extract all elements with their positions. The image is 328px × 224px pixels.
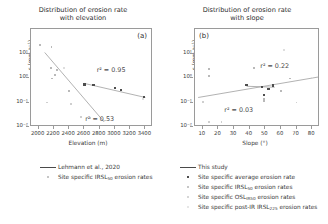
data-point-avg bbox=[272, 84, 274, 86]
y-tick-label: 10⁰ bbox=[166, 73, 192, 79]
legend-square-swatch bbox=[187, 176, 190, 179]
data-point-pir bbox=[311, 77, 313, 79]
legend-square-swatch bbox=[187, 196, 190, 199]
x-tick-mark bbox=[114, 126, 115, 129]
data-point-irsl bbox=[253, 67, 255, 69]
y-tick-mark bbox=[26, 126, 29, 127]
legend-item-label: This study bbox=[198, 164, 228, 170]
y-tick-label: 10¹ bbox=[166, 49, 192, 55]
x-tick-label: 20 bbox=[214, 130, 221, 136]
x-tick-label: 2600 bbox=[77, 130, 90, 136]
figure-legend: Lehmann et al., 2020Site specific IRSL50… bbox=[0, 162, 328, 224]
data-point-pir bbox=[142, 98, 144, 100]
legend-item[interactable]: Site specific IRSL50 erosion rates bbox=[38, 172, 178, 182]
regression-lines bbox=[31, 29, 153, 127]
data-point-osl bbox=[296, 102, 298, 104]
x-tick-mark bbox=[311, 126, 312, 129]
data-point-osl bbox=[208, 121, 210, 123]
x-tick-label: 80 bbox=[308, 130, 315, 136]
y-tick-label: 10⁻¹ bbox=[2, 98, 28, 104]
panel-a-plot-area: r² = 0.95r² = 0.53(a) bbox=[30, 28, 152, 126]
data-point-irsl bbox=[208, 68, 210, 70]
data-point-osl bbox=[70, 103, 72, 105]
x-tick-label: 3000 bbox=[107, 130, 120, 136]
legend-item[interactable]: Site specific OSLIR50 erosion rates bbox=[178, 192, 328, 202]
legend-item-label: Site specific IRSL50 erosion rates bbox=[58, 174, 152, 180]
legend-marker-irsl bbox=[178, 182, 198, 192]
regression-line bbox=[45, 52, 104, 122]
legend-column-right: This studySite specific average erosion … bbox=[178, 162, 328, 212]
legend-item[interactable]: Lehmann et al., 2020 bbox=[38, 162, 178, 172]
y-tick-mark bbox=[26, 53, 29, 54]
y-tick-mark bbox=[190, 53, 193, 54]
legend-line-swatch bbox=[40, 167, 56, 168]
data-point-irsl bbox=[39, 44, 41, 46]
x-tick-label: 2800 bbox=[92, 130, 105, 136]
legend-item-label: Site specific OSLIR50 erosion rates bbox=[198, 194, 295, 200]
legend-item-label: Site specific IRSL50 erosion rates bbox=[198, 184, 292, 190]
legend-item[interactable]: Site specific IRSL50 erosion rates bbox=[178, 182, 328, 192]
r-squared-annotation: r² = 0.03 bbox=[224, 106, 253, 114]
x-tick-label: 2000 bbox=[31, 130, 44, 136]
r-squared-annotation: r² = 0.53 bbox=[85, 115, 114, 123]
data-point-irsl bbox=[50, 67, 52, 69]
data-point-irsl bbox=[280, 90, 282, 92]
x-tick-label: 3200 bbox=[122, 130, 135, 136]
legend-marker-osl bbox=[178, 192, 198, 202]
legend-item[interactable]: This study bbox=[178, 162, 328, 172]
data-point-irsl bbox=[68, 90, 70, 92]
x-tick-label: 40 bbox=[245, 130, 252, 136]
data-point-irsl bbox=[51, 46, 53, 48]
x-tick-label: 50 bbox=[261, 130, 268, 136]
y-tick-label: 10⁻¹ bbox=[166, 98, 192, 104]
panel-a: Distribution of erosion rate with elevat… bbox=[0, 0, 164, 160]
data-point-irsl bbox=[263, 100, 265, 102]
y-tick-label: 10⁻² bbox=[2, 122, 28, 128]
r-squared-annotation: r² = 0.22 bbox=[260, 62, 289, 70]
r-squared-annotation: r² = 0.95 bbox=[97, 66, 126, 74]
panel-label: (b) bbox=[199, 32, 209, 40]
x-tick-mark bbox=[233, 126, 234, 129]
panel-a-y-ticks: 10¹10⁰10⁻¹10⁻² bbox=[0, 28, 28, 126]
data-point-pir bbox=[283, 49, 285, 51]
x-tick-mark bbox=[129, 126, 130, 129]
x-tick-label: 10 bbox=[198, 130, 205, 136]
x-tick-mark bbox=[68, 126, 69, 129]
legend-square-swatch bbox=[187, 206, 190, 209]
x-tick-mark bbox=[99, 126, 100, 129]
panel-b-title: Distribution of erosion rate with slope bbox=[172, 6, 322, 23]
data-point-osl bbox=[202, 101, 204, 103]
legend-item-label: Lehmann et al., 2020 bbox=[58, 164, 120, 170]
x-tick-label: 70 bbox=[292, 130, 299, 136]
panel-b-x-axis-label: Slope (°) bbox=[188, 140, 322, 146]
x-tick-mark bbox=[202, 126, 203, 129]
x-tick-label: 2200 bbox=[46, 130, 59, 136]
data-point-avg bbox=[267, 88, 269, 90]
y-tick-mark bbox=[190, 126, 193, 127]
x-tick-mark bbox=[53, 126, 54, 129]
x-tick-mark bbox=[249, 126, 250, 129]
panel-b: Distribution of erosion rate with slope … bbox=[164, 0, 328, 160]
legend-square-swatch bbox=[187, 186, 190, 189]
legend-line-swatch bbox=[180, 167, 196, 168]
figure-container: Distribution of erosion rate with elevat… bbox=[0, 0, 328, 224]
data-point-avg bbox=[245, 84, 247, 86]
y-tick-label: 10⁻² bbox=[166, 122, 192, 128]
x-tick-label: 60 bbox=[277, 130, 284, 136]
legend-marker-line bbox=[178, 162, 198, 172]
data-point-irsl bbox=[54, 74, 56, 76]
y-tick-mark bbox=[26, 102, 29, 103]
legend-item[interactable]: Site specific average erosion rate bbox=[178, 172, 328, 182]
data-point-avg bbox=[261, 86, 263, 88]
x-tick-mark bbox=[296, 126, 297, 129]
legend-item[interactable]: Site specific post-IR IRSL225 erosion ra… bbox=[178, 202, 328, 212]
data-point-avg bbox=[92, 84, 94, 86]
x-tick-mark bbox=[217, 126, 218, 129]
x-tick-mark bbox=[38, 126, 39, 129]
data-point-irsl bbox=[208, 75, 210, 77]
data-point-osl bbox=[221, 121, 223, 123]
legend-item-label: Site specific average erosion rate bbox=[198, 174, 295, 180]
data-point-irsl bbox=[289, 78, 291, 80]
y-tick-mark bbox=[26, 77, 29, 78]
y-tick-mark bbox=[190, 77, 193, 78]
